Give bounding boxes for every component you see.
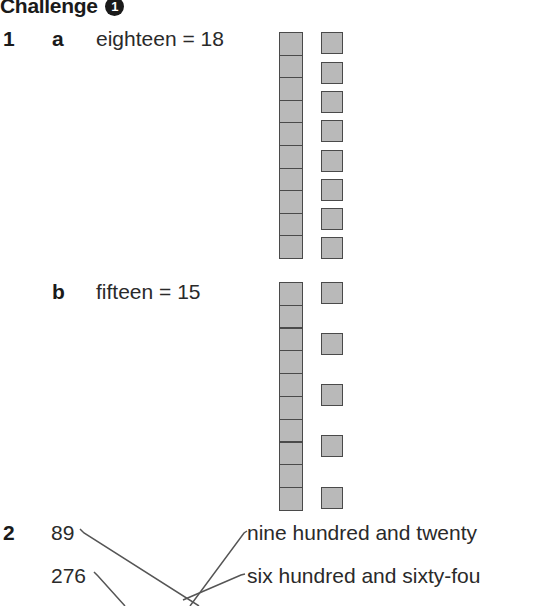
line-89 <box>80 529 199 606</box>
line-six-hundred-sixty-four <box>183 574 245 600</box>
line-276 <box>94 572 125 606</box>
line-nine-hundred-twenty <box>190 531 247 606</box>
matching-lines <box>0 0 536 606</box>
